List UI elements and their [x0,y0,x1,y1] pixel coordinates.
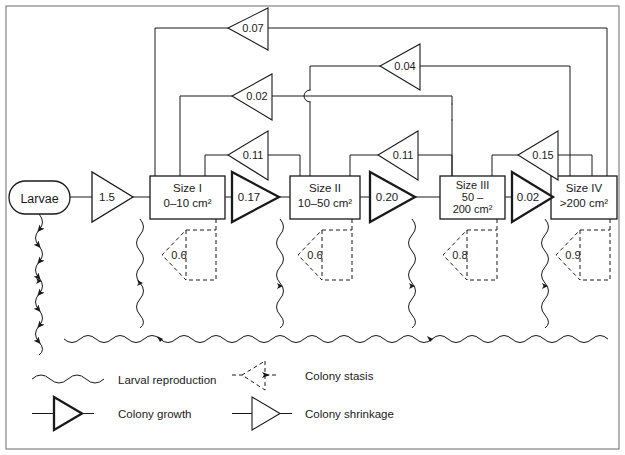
stasis-loop-size-iv[interactable]: 0.9 [556,219,610,280]
node-size-iii-line3: 200 cm² [453,203,493,215]
growth-rate-1-5-label: 1.5 [99,191,115,203]
legend-label-colony-growth: Colony growth [118,408,192,420]
stasis-loop-size-iii[interactable]: 0.8 [443,219,497,280]
legend-label-colony-stasis: Colony stasis [305,370,374,382]
node-larvae[interactable]: Larvae [9,181,70,214]
legend-item-colony-shrinkage: Colony shrinkage [232,397,394,430]
node-size-ii[interactable]: Size II 10–50 cm² [290,176,360,219]
stasis-loop-size-iv-label: 0.9 [565,249,580,261]
legend: Larval reproduction Colony stasis Colony… [32,361,394,430]
node-size-ii-line2: 10–50 cm² [298,197,353,209]
growth-rate-0-02[interactable]: 0.02 [512,172,553,222]
wavy-size-iii-drop [409,219,416,328]
wavy-size-iv-drop [542,219,549,328]
node-size-iv-line2: >200 cm² [560,197,608,209]
wavy-arrowhead-size-iii [409,283,415,289]
node-larvae-label: Larvae [20,192,58,206]
growth-rate-0-17[interactable]: 0.17 [232,172,279,222]
wavy-size-i-drop [137,219,144,328]
thin-triangle-icon [252,397,280,430]
growth-rate-0-02-label: 0.02 [517,191,539,203]
node-size-i-line1: Size I [173,182,202,194]
shrinkage-rate-0-07-iv-i[interactable]: 0.07 [228,8,268,50]
node-size-i-line2: 0–10 cm² [164,197,212,209]
node-size-iii-line2: 50 – [462,191,484,203]
wavy-size-ii-drop [277,219,284,328]
dashed-triangle-icon [232,361,276,390]
shrinkage-rate-0-02-iii-i[interactable]: 0.02 [232,74,272,120]
growth-rate-1-5[interactable]: 1.5 [92,172,133,222]
diagram-canvas: Larvae Size I 0–10 cm² Size II 10–50 cm²… [0,0,625,455]
node-size-ii-line1: Size II [309,182,341,194]
wavy-arrowhead-larvae [36,278,42,284]
shrinkage-rate-0-07-iv-i-label: 0.07 [242,22,263,34]
transition-diagram-svg: Larvae Size I 0–10 cm² Size II 10–50 cm²… [0,0,625,455]
wavy-arrowhead-size-ii [277,283,283,289]
legend-item-colony-stasis: Colony stasis [232,361,374,390]
wavy-arrowhead-trunk-right [427,336,433,342]
shrinkage-rate-0-04-iv-ii[interactable]: 0.04 [380,44,420,90]
legend-item-colony-growth: Colony growth [32,397,192,430]
stasis-loop-size-ii-label: 0.6 [307,249,322,261]
stasis-loop-size-i[interactable]: 0.6 [162,219,216,280]
node-size-iv[interactable]: Size IV >200 cm² [551,176,617,219]
legend-label-colony-shrinkage: Colony shrinkage [305,408,394,420]
shrinkage-rate-0-04-iv-ii-label: 0.04 [394,60,415,72]
stasis-loop-size-i-label: 0.6 [171,249,186,261]
node-size-iii[interactable]: Size III 50 – 200 cm² [440,176,505,219]
shrinkage-rate-0-11-iii-ii-label: 0.11 [393,149,414,161]
growth-rate-0-17-label: 0.17 [238,191,260,203]
growth-rate-0-20[interactable]: 0.20 [370,172,415,222]
legend-item-larval-reproduction: Larval reproduction [32,374,216,386]
node-size-iv-line1: Size IV [566,182,603,194]
legend-label-larval-reproduction: Larval reproduction [118,374,216,386]
shrinkage-rate-0-02-iii-i-label: 0.02 [246,90,267,102]
wavy-trunk [64,336,608,343]
shrinkage-rate-0-15-iv-iii[interactable]: 0.15 [518,131,558,180]
bold-triangle-icon [54,397,82,430]
wavy-arrowhead-size-iv [542,283,548,289]
shrinkage-rate-0-11-ii-i-label: 0.11 [243,149,264,161]
shrinkage-rate-0-15-iv-iii-label: 0.15 [532,149,553,161]
wavy-line-icon [32,375,104,383]
node-size-iii-line1: Size III [456,179,490,191]
wavy-larvae-drop [36,214,43,355]
growth-rate-0-20-label: 0.20 [376,191,398,203]
shrinkage-rate-0-11-iii-ii[interactable]: 0.11 [378,131,418,180]
stasis-loop-size-iii-label: 0.8 [452,249,467,261]
node-size-i[interactable]: Size I 0–10 cm² [150,176,225,219]
stasis-loop-size-ii[interactable]: 0.6 [298,219,352,280]
